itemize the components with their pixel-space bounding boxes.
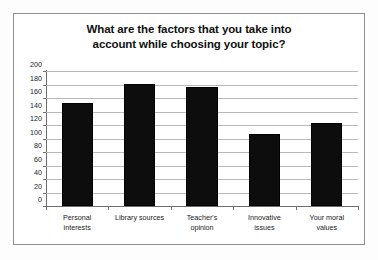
bar-series <box>46 71 358 206</box>
bar <box>311 123 342 206</box>
y-axis-tick-label: 40 <box>16 169 42 176</box>
y-axis-tick-label: 100 <box>16 129 42 136</box>
y-axis-tick-label: 120 <box>16 115 42 122</box>
x-axis-label-line: interests <box>46 223 108 233</box>
y-axis-labels: 200180160140120100806040200 <box>16 65 42 201</box>
y-axis-tick-label: 200 <box>16 61 42 68</box>
y-axis-tick-label: 80 <box>16 142 42 149</box>
x-axis-tick <box>171 207 172 210</box>
x-axis-label-line: Innovative <box>233 213 295 223</box>
x-axis-category-label: Library sources <box>108 213 170 223</box>
y-axis-tick-label: 20 <box>16 183 42 190</box>
x-axis-label-line: issues <box>233 223 295 233</box>
bar <box>62 103 93 206</box>
plot-area <box>46 71 358 206</box>
gridline <box>46 206 358 207</box>
y-axis-tick-label: 180 <box>16 75 42 82</box>
x-axis-category-label: Teacher'sopinion <box>171 213 233 233</box>
y-axis-tick-label: 0 <box>16 196 42 203</box>
x-axis-label-line: Teacher's <box>171 213 233 223</box>
y-axis-tick-label: 160 <box>16 88 42 95</box>
bar <box>186 87 217 206</box>
x-axis-category-label: Personalinterests <box>46 213 108 233</box>
plot-wrapper: 200180160140120100806040200 Personalinte… <box>14 14 366 246</box>
x-axis-label-line: Library sources <box>108 213 170 223</box>
x-axis-label-line: Personal <box>46 213 108 223</box>
bar <box>124 84 155 206</box>
x-axis-label-line: opinion <box>171 223 233 233</box>
chart-screenshot: What are the factors that you take into … <box>0 0 378 260</box>
x-axis-tick <box>233 207 234 210</box>
x-axis-tick <box>296 207 297 210</box>
y-axis-tick-label: 60 <box>16 156 42 163</box>
x-axis-tick <box>358 207 359 210</box>
x-axis-tick <box>46 207 47 210</box>
chart-frame: What are the factors that you take into … <box>13 13 365 245</box>
x-axis-category-label: Your moralvalues <box>296 213 358 233</box>
x-axis-label-line: Your moral <box>296 213 358 223</box>
x-axis-tick <box>108 207 109 210</box>
x-axis-labels: PersonalinterestsLibrary sourcesTeacher'… <box>46 213 358 243</box>
x-axis-label-line: values <box>296 223 358 233</box>
x-axis-category-label: Innovativeissues <box>233 213 295 233</box>
bar <box>249 134 280 206</box>
y-axis-tick-label: 140 <box>16 102 42 109</box>
